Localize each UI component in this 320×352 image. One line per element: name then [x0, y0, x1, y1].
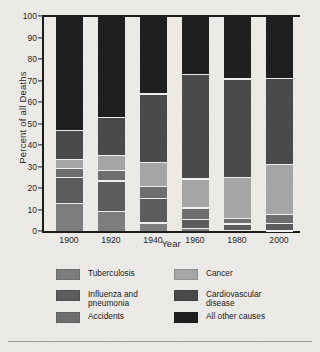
segment-separator [140, 222, 167, 223]
plot-area: Percent of all Deaths 010203040506070809… [0, 0, 320, 248]
segment-separator [98, 180, 125, 181]
y-tick-label: 70 [2, 76, 42, 86]
legend-label-line2: disease [206, 299, 261, 309]
legend-item[interactable]: All other causes [174, 311, 286, 331]
y-tick-label: 30 [2, 162, 42, 172]
bar-segment-influenza_pneumonia[interactable] [182, 219, 209, 228]
legend-swatch [56, 290, 80, 301]
bar-1960[interactable] [182, 16, 209, 231]
segment-separator [182, 207, 209, 208]
legend-item[interactable]: Cancer [174, 268, 286, 288]
legend-item[interactable]: Tuberculosis [56, 268, 168, 288]
bar-segment-tuberculosis[interactable] [56, 203, 83, 231]
bar-segment-cardiovascular_disease[interactable] [98, 117, 125, 155]
bar-1940[interactable] [140, 16, 167, 231]
legend-item[interactable]: Cardiovasculardisease [174, 289, 286, 310]
bar-segment-cardiovascular_disease[interactable] [224, 78, 251, 177]
bar-group [42, 16, 300, 231]
bar-1980[interactable] [224, 16, 251, 231]
bar-segment-cancer[interactable] [182, 178, 209, 207]
y-tick-label: 50 [2, 119, 42, 129]
y-tick-label: 100 [2, 11, 42, 21]
bar-segment-accidents[interactable] [98, 170, 125, 181]
bar-segment-cardiovascular_disease[interactable] [182, 74, 209, 178]
legend-label: Accidents [88, 311, 124, 321]
legend-label: Tuberculosis [88, 268, 135, 278]
segment-separator [56, 203, 83, 204]
legend-swatch [174, 290, 198, 301]
legend-swatch [56, 269, 80, 280]
x-axis-title: Year [42, 238, 300, 249]
bar-1920[interactable] [98, 16, 125, 231]
y-tick-label: 0 [2, 226, 42, 236]
segment-separator [224, 177, 251, 178]
y-tick-label: 20 [2, 183, 42, 193]
segment-separator [182, 178, 209, 179]
bar-segment-accidents[interactable] [140, 186, 167, 198]
segment-separator [266, 223, 293, 224]
bar-segment-cancer[interactable] [224, 177, 251, 218]
bar-segment-cancer[interactable] [98, 155, 125, 170]
segment-separator [224, 230, 251, 231]
legend-label: Cancer [206, 268, 233, 278]
segment-separator [140, 162, 167, 163]
x-axis-line [42, 231, 300, 233]
segment-separator [140, 198, 167, 199]
legend-label: Influenza andpneumonia [88, 289, 138, 309]
legend-swatch [174, 269, 198, 280]
axes: 0102030405060708090100 19001920194019601… [42, 16, 300, 231]
y-tick-label: 60 [2, 97, 42, 107]
bar-segment-all_other_causes[interactable] [224, 16, 251, 78]
segment-separator [56, 159, 83, 160]
legend-swatch [174, 312, 198, 323]
segment-separator [98, 170, 125, 171]
segment-separator [140, 93, 167, 94]
bar-segment-influenza_pneumonia[interactable] [98, 180, 125, 210]
bar-segment-cancer[interactable] [266, 164, 293, 214]
bar-segment-cancer[interactable] [56, 159, 83, 168]
bar-segment-cancer[interactable] [140, 162, 167, 186]
bar-segment-all_other_causes[interactable] [98, 16, 125, 117]
y-tick-label: 90 [2, 33, 42, 43]
segment-separator [56, 168, 83, 169]
segment-separator [182, 228, 209, 229]
segment-separator [224, 218, 251, 219]
bar-segment-tuberculosis[interactable] [140, 222, 167, 231]
bar-segment-accidents[interactable] [182, 207, 209, 219]
bar-segment-cardiovascular_disease[interactable] [56, 130, 83, 159]
bar-segment-tuberculosis[interactable] [98, 211, 125, 231]
legend-item[interactable]: Accidents [56, 311, 168, 331]
segment-separator [56, 177, 83, 178]
bar-1900[interactable] [56, 16, 83, 231]
segment-separator [266, 214, 293, 215]
segment-separator [98, 155, 125, 156]
footer-rule [8, 341, 312, 342]
y-tick-label: 80 [2, 54, 42, 64]
bar-segment-accidents[interactable] [56, 168, 83, 178]
bar-segment-influenza_pneumonia[interactable] [56, 177, 83, 203]
segment-separator [98, 211, 125, 212]
segment-separator [224, 78, 251, 79]
legend-column-right: CancerCardiovasculardiseaseAll other cau… [174, 268, 286, 332]
bar-segment-influenza_pneumonia[interactable] [140, 198, 167, 223]
segment-separator [140, 186, 167, 187]
bar-2000[interactable] [266, 16, 293, 231]
bar-segment-cardiovascular_disease[interactable] [140, 93, 167, 162]
segment-separator [98, 117, 125, 118]
legend-item[interactable]: Influenza andpneumonia [56, 289, 168, 310]
segment-separator [266, 164, 293, 165]
legend: TuberculosisInfluenza andpneumoniaAccide… [56, 268, 286, 330]
y-tick-label: 40 [2, 140, 42, 150]
legend-label-line2: pneumonia [88, 299, 138, 309]
legend-label: All other causes [206, 311, 265, 321]
bar-segment-cardiovascular_disease[interactable] [266, 78, 293, 164]
legend-swatch [56, 312, 80, 323]
bar-segment-all_other_causes[interactable] [182, 16, 209, 74]
bar-segment-all_other_causes[interactable] [266, 16, 293, 78]
bar-segment-all_other_causes[interactable] [140, 16, 167, 93]
segment-separator [224, 223, 251, 224]
bar-segment-all_other_causes[interactable] [56, 16, 83, 130]
legend-label: Cardiovasculardisease [206, 289, 261, 309]
legend-column-left: TuberculosisInfluenza andpneumoniaAccide… [56, 268, 168, 332]
bar-segment-accidents[interactable] [266, 214, 293, 223]
